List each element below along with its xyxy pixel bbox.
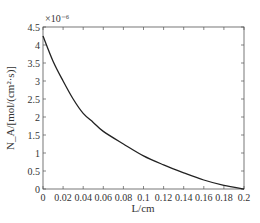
y-tick-label: 4.5 — [28, 22, 41, 33]
y-multiplier: ×10⁻⁶ — [45, 13, 70, 24]
x-tick-label: 0.16 — [195, 192, 213, 203]
series-line — [43, 36, 244, 189]
y-tick-label: 0 — [35, 184, 40, 195]
y-tick-label: 4 — [35, 40, 40, 51]
plot-frame — [43, 27, 244, 189]
y-tick-label: 0.5 — [28, 166, 41, 177]
y-tick-label: 2 — [35, 112, 40, 123]
y-axis-label: N_A/[mol/(cm²·s)] — [4, 66, 17, 150]
x-tick-label: 0 — [41, 192, 46, 203]
y-tick-label: 3.5 — [28, 58, 41, 69]
y-tick-label: 3 — [35, 76, 40, 87]
x-tick-label: 0.04 — [74, 192, 92, 203]
x-tick-label: 0.06 — [95, 192, 113, 203]
y-tick-label: 1 — [35, 148, 40, 159]
x-tick-label: 0.14 — [175, 192, 193, 203]
line-chart: 00.020.040.060.080.10.120.140.160.180.20… — [0, 0, 260, 223]
plot-area: 00.020.040.060.080.10.120.140.160.180.20… — [28, 22, 251, 204]
x-tick-label: 0.2 — [238, 192, 251, 203]
y-tick-label: 1.5 — [28, 130, 41, 141]
x-tick-label: 0.12 — [155, 192, 173, 203]
x-axis-label: L/cm — [131, 202, 155, 214]
x-tick-label: 0.08 — [115, 192, 133, 203]
x-tick-label: 0.18 — [215, 192, 233, 203]
x-tick-label: 0.02 — [54, 192, 72, 203]
y-tick-label: 2.5 — [28, 94, 41, 105]
